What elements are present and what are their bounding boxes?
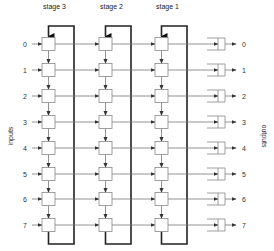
input-label: 0 bbox=[23, 41, 27, 48]
outputs-axis-label: outputs bbox=[260, 125, 268, 148]
feedback-loop bbox=[162, 26, 188, 244]
switch-box bbox=[42, 116, 55, 129]
switch-box bbox=[155, 64, 168, 77]
input-label: 6 bbox=[23, 196, 27, 203]
switch-box bbox=[155, 168, 168, 181]
switch-box bbox=[155, 142, 168, 155]
switch-box bbox=[42, 38, 55, 51]
output-label: 0 bbox=[242, 41, 246, 48]
input-label: 5 bbox=[23, 171, 27, 178]
feedback-loop bbox=[49, 26, 75, 244]
switch-box bbox=[155, 116, 168, 129]
multistage-network-diagram: stage 3stage 2stage 1 0123456701234567 i… bbox=[0, 0, 274, 251]
switch-box bbox=[99, 90, 112, 103]
switch-box bbox=[99, 116, 112, 129]
switch-box bbox=[42, 142, 55, 155]
switch-box bbox=[99, 168, 112, 181]
switch-box bbox=[99, 219, 112, 232]
output-label: 2 bbox=[242, 93, 246, 100]
switch-box bbox=[99, 38, 112, 51]
switch-box bbox=[99, 193, 112, 206]
switch-box bbox=[42, 219, 55, 232]
stage-label: stage 2 bbox=[100, 3, 123, 11]
switch-box bbox=[99, 142, 112, 155]
output-label: 4 bbox=[242, 145, 246, 152]
output-label: 3 bbox=[242, 119, 246, 126]
input-label: 1 bbox=[23, 67, 27, 74]
switch-box bbox=[155, 219, 168, 232]
switch-box bbox=[42, 193, 55, 206]
stage-label: stage 3 bbox=[43, 3, 66, 11]
switch-box bbox=[155, 193, 168, 206]
input-label: 7 bbox=[23, 222, 27, 229]
feedback-loop bbox=[106, 26, 132, 244]
switch-box bbox=[42, 90, 55, 103]
stage-label: stage 1 bbox=[156, 3, 179, 11]
switch-box bbox=[99, 64, 112, 77]
switch-box bbox=[155, 90, 168, 103]
switch-box bbox=[155, 38, 168, 51]
switch-box bbox=[42, 168, 55, 181]
output-label: 1 bbox=[242, 67, 246, 74]
input-label: 4 bbox=[23, 145, 27, 152]
input-label: 2 bbox=[23, 93, 27, 100]
input-label: 3 bbox=[23, 119, 27, 126]
output-label: 7 bbox=[242, 222, 246, 229]
switch-box bbox=[42, 64, 55, 77]
inputs-axis-label: inputs bbox=[7, 126, 15, 145]
output-label: 6 bbox=[242, 196, 246, 203]
output-label: 5 bbox=[242, 171, 246, 178]
